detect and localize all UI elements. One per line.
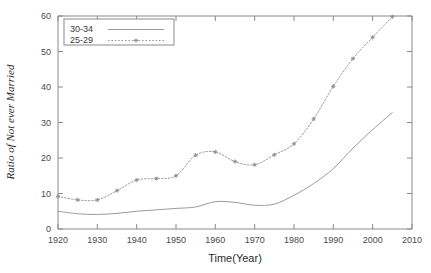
legend-marker-25-29 <box>134 38 138 42</box>
y-tick-label: 0 <box>46 224 51 234</box>
y-tick-label: 10 <box>41 189 51 199</box>
series-line <box>58 113 392 215</box>
data-point-marker <box>272 153 276 157</box>
x-tick-label: 1950 <box>166 235 186 245</box>
data-point-marker <box>371 35 375 39</box>
y-axis-title: Ratio of Not ever Married <box>4 64 16 180</box>
x-tick-label: 1920 <box>48 235 68 245</box>
x-tick-label: 2010 <box>402 235 422 245</box>
data-point-marker <box>292 142 296 146</box>
legend-label-25-29: 25-29 <box>70 35 93 45</box>
axis-frame <box>58 16 412 229</box>
series-30-34 <box>58 113 392 215</box>
chart-figure: 0102030405060 19201930194019501960197019… <box>0 0 431 273</box>
data-point-marker <box>331 84 335 88</box>
y-tick-label: 60 <box>41 11 51 21</box>
x-tick-label: 1980 <box>284 235 304 245</box>
data-point-marker <box>390 15 394 19</box>
legend-label-30-34: 30-34 <box>70 24 93 34</box>
y-tick-label: 20 <box>41 153 51 163</box>
x-tick-label: 2000 <box>363 235 383 245</box>
data-point-marker <box>233 159 237 163</box>
x-tick-label: 1930 <box>87 235 107 245</box>
y-tick-label: 50 <box>41 47 51 57</box>
data-point-marker <box>351 57 355 61</box>
data-point-marker <box>253 163 257 167</box>
y-tick-label: 40 <box>41 82 51 92</box>
data-point-marker <box>213 150 217 154</box>
x-tick-label: 1940 <box>127 235 147 245</box>
data-point-marker <box>76 198 80 202</box>
data-point-marker <box>56 194 60 198</box>
data-point-marker <box>115 189 119 193</box>
data-point-marker <box>194 153 198 157</box>
data-point-marker <box>135 178 139 182</box>
data-point-marker <box>154 176 158 180</box>
data-point-marker <box>312 117 316 121</box>
x-axis-title: Time(Year) <box>208 252 262 264</box>
data-point-marker <box>174 174 178 178</box>
x-tick-label: 1960 <box>205 235 225 245</box>
y-tick-label: 30 <box>41 118 51 128</box>
chart-legend: 30-3425-29 <box>64 19 174 45</box>
x-tick-label: 1990 <box>323 235 343 245</box>
line-chart: 0102030405060 19201930194019501960197019… <box>0 0 431 273</box>
x-axis-ticks: 1920193019401950196019701980199020002010 <box>48 16 422 245</box>
x-tick-label: 1970 <box>245 235 265 245</box>
data-point-marker <box>95 198 99 202</box>
